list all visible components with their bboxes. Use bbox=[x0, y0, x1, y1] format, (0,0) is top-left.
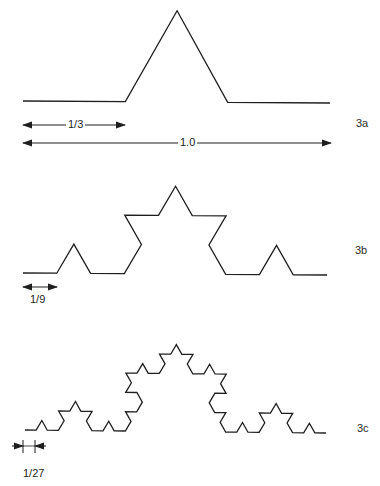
dimension-label-one-twentyseventh: 1/27 bbox=[21, 468, 46, 479]
dimension-label-one-ninth: 1/9 bbox=[28, 294, 47, 305]
koch-curve-iteration-2 bbox=[23, 186, 327, 275]
figure-label-3a: 3a bbox=[356, 118, 368, 129]
dimension-label-unit-length: 1.0 bbox=[178, 137, 197, 148]
koch-curve-diagram bbox=[0, 0, 380, 486]
dimension-arrows bbox=[12, 125, 331, 453]
figure-label-3c: 3c bbox=[357, 423, 369, 434]
figure-label-3b: 3b bbox=[355, 245, 367, 256]
dimension-label-one-third: 1/3 bbox=[66, 119, 85, 130]
koch-curve-iteration-3 bbox=[25, 345, 326, 433]
koch-curve-iteration-1 bbox=[23, 11, 330, 103]
